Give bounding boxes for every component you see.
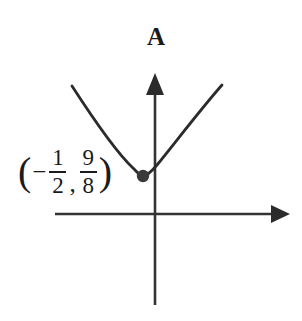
- vertex-point-marker: [137, 170, 149, 182]
- curve-label-A: A: [143, 24, 169, 49]
- vertex-coordinate-label: ( − 1 2 , 9 8 ): [18, 146, 112, 199]
- x-fraction-numerator: 1: [50, 146, 66, 170]
- x-fraction-denominator: 2: [50, 174, 66, 198]
- y-axis-arrowhead-icon: [146, 73, 164, 95]
- x-axis-arrowhead-icon: [271, 205, 290, 223]
- parabola-figure: A ( − 1 2 , 9 8 ): [0, 0, 302, 321]
- open-paren: (: [18, 154, 31, 190]
- minus-sign: −: [31, 159, 47, 184]
- x-coordinate-fraction: 1 2: [49, 146, 66, 199]
- y-fraction-denominator: 8: [80, 174, 96, 198]
- coordinate-comma: ,: [68, 171, 77, 196]
- y-fraction-numerator: 9: [80, 146, 96, 170]
- close-paren: ): [99, 154, 112, 190]
- y-coordinate-fraction: 9 8: [80, 146, 97, 199]
